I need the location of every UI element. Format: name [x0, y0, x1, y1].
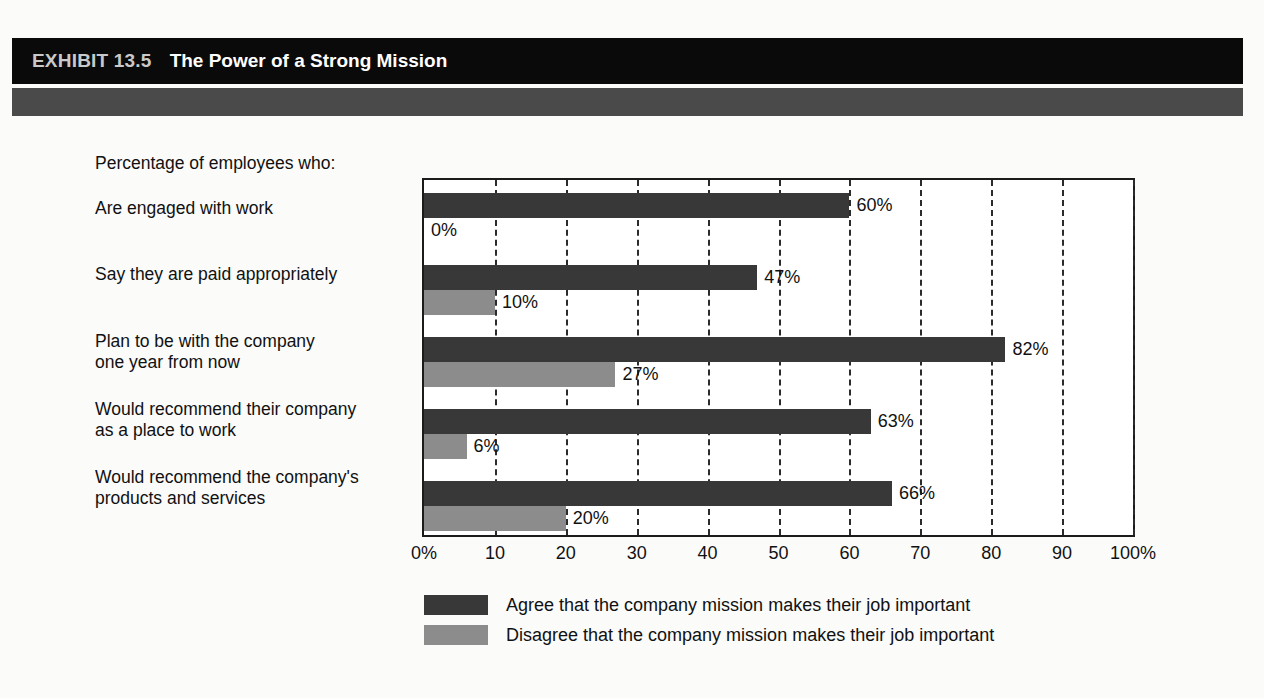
legend-swatch-agree-icon: [424, 595, 488, 615]
chart-legend: Agree that the company mission makes the…: [424, 592, 994, 652]
category-label-4: Would recommend the company's products a…: [95, 467, 415, 509]
bar-value-label-agree-3: 63%: [878, 409, 914, 434]
x-tick-label-50: 50: [768, 543, 788, 564]
bar-disagree-4: [424, 506, 566, 531]
legend-label-disagree: Disagree that the company mission makes …: [506, 625, 994, 646]
bar-agree-4: [424, 481, 892, 506]
x-tick-label-90: 90: [1052, 543, 1072, 564]
x-tick-label-10: 10: [485, 543, 505, 564]
exhibit-number: EXHIBIT 13.5: [32, 50, 152, 72]
bar-value-label-agree-0: 60%: [856, 193, 892, 218]
exhibit-title: The Power of a Strong Mission: [170, 50, 448, 72]
category-label-3: Would recommend their company as a place…: [95, 399, 415, 441]
bar-value-label-agree-4: 66%: [899, 481, 935, 506]
bar-disagree-3: [424, 434, 467, 459]
gridline-100: [1133, 180, 1135, 535]
x-tick-label-40: 40: [698, 543, 718, 564]
x-tick-label-100: 100%: [1110, 543, 1156, 564]
bar-value-label-agree-1: 47%: [764, 265, 800, 290]
bar-value-label-disagree-3: 6%: [474, 434, 500, 459]
bar-value-label-disagree-0: 0%: [431, 218, 457, 243]
legend-item-agree: Agree that the company mission makes the…: [424, 592, 994, 618]
category-label-2: Plan to be with the company one year fro…: [95, 331, 415, 373]
x-tick-label-70: 70: [910, 543, 930, 564]
bar-value-label-disagree-2: 27%: [622, 362, 658, 387]
bar-agree-3: [424, 409, 871, 434]
plot-area: 60%0%47%10%82%27%63%6%66%20%: [422, 178, 1135, 537]
bar-disagree-2: [424, 362, 615, 387]
bar-value-label-disagree-4: 20%: [573, 506, 609, 531]
x-tick-label-60: 60: [839, 543, 859, 564]
bar-value-label-agree-2: 82%: [1012, 337, 1048, 362]
bar-agree-1: [424, 265, 757, 290]
exhibit-subtitle-band: [12, 88, 1243, 116]
legend-item-disagree: Disagree that the company mission makes …: [424, 622, 994, 648]
category-label-0: Are engaged with work: [95, 198, 415, 219]
bar-value-label-disagree-1: 10%: [502, 290, 538, 315]
x-tick-label-20: 20: [556, 543, 576, 564]
gridline-90: [1062, 180, 1064, 535]
chart-container: Percentage of employees who: 60%0%47%10%…: [0, 116, 1264, 698]
bar-agree-0: [424, 193, 849, 218]
category-label-1: Say they are paid appropriately: [95, 264, 415, 285]
chart-caption: Percentage of employees who:: [95, 153, 335, 174]
bar-disagree-1: [424, 290, 495, 315]
x-tick-label-30: 30: [627, 543, 647, 564]
legend-swatch-disagree-icon: [424, 625, 488, 645]
x-tick-label-0: 0%: [411, 543, 437, 564]
bar-agree-2: [424, 337, 1005, 362]
legend-label-agree: Agree that the company mission makes the…: [506, 595, 970, 616]
x-tick-label-80: 80: [981, 543, 1001, 564]
exhibit-title-band: EXHIBIT 13.5 The Power of a Strong Missi…: [12, 38, 1243, 84]
